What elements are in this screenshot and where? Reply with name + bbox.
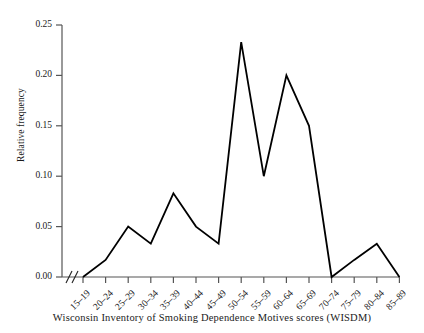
line-chart-plot (0, 0, 424, 333)
figure-container: Relative frequency 0.000.050.100.150.200… (0, 0, 424, 333)
x-axis-ticks (83, 277, 399, 283)
x-axis-title: Wisconsin Inventory of Smoking Dependenc… (0, 312, 424, 323)
y-tick-label: 0.10 (18, 170, 52, 180)
data-series-line (83, 42, 399, 277)
x-axis (62, 271, 400, 283)
y-tick-label: 0.25 (18, 19, 52, 29)
y-axis-ticks (56, 25, 62, 277)
y-tick-label: 0.20 (18, 69, 52, 79)
y-axis (56, 25, 62, 277)
y-tick-label: 0.00 (18, 271, 52, 281)
y-tick-label: 0.15 (18, 120, 52, 130)
y-tick-label: 0.05 (18, 221, 52, 231)
